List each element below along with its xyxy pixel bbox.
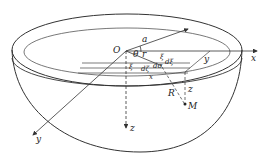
origin-label: O bbox=[113, 45, 121, 55]
y-distance-label: y bbox=[203, 54, 210, 64]
radius-a-arrow bbox=[126, 29, 188, 51]
point-M bbox=[184, 103, 187, 106]
y-axis bbox=[33, 51, 126, 135]
d-zeta-label: dζ bbox=[141, 65, 150, 73]
x-distance-label: x bbox=[149, 73, 153, 81]
d-xi-label: dξ bbox=[165, 58, 174, 66]
d-omega-label: dσ bbox=[153, 62, 162, 70]
R-label: R bbox=[167, 88, 175, 98]
r-label: r bbox=[142, 49, 147, 59]
point-M-label: M bbox=[187, 101, 198, 111]
y-axis-label: y bbox=[35, 134, 42, 144]
z-distance-label: z bbox=[187, 84, 193, 94]
bowl-inner-ellipse bbox=[24, 28, 230, 76]
z-axis-label: z bbox=[129, 123, 135, 133]
bowl-body bbox=[12, 50, 242, 152]
x-axis-label: x bbox=[251, 53, 256, 63]
bowl-outer-rim bbox=[12, 14, 242, 86]
xi-label: ξ bbox=[129, 63, 134, 71]
radius-a-label: a bbox=[142, 34, 147, 44]
hemisphere-diagram: x y z O a θ r y ξ dζ dσ ξ dξ x R z M bbox=[0, 0, 267, 159]
